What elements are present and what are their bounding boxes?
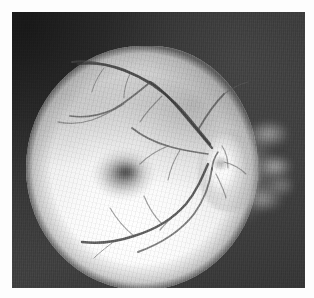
fundus-photograph-page [0,0,314,298]
retinal-fundus-plate [12,12,305,288]
scan-noise [12,12,305,288]
